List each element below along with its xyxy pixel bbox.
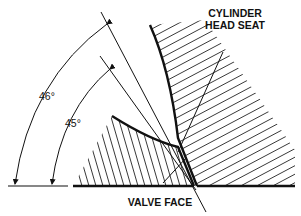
hatch-line [130,214,300,215]
face-angle-line [100,56,196,190]
hatch-line [130,87,300,177]
hatch-line [130,19,300,109]
hatch-line [130,0,300,7]
angle-45-label: 45° [65,117,81,129]
hatch-line [123,110,145,186]
hatch-line [130,110,152,186]
hatch-line [130,172,300,216]
hatch-line [88,110,110,186]
angle-46-arc [15,24,107,184]
hatch-line [130,36,300,126]
valve-face-label: VALVE FACE [128,196,192,208]
hatch-line [130,61,300,151]
hatch-line [151,110,173,186]
hatch-line [130,53,300,143]
hatch-line [81,110,103,186]
hatch-line [95,110,117,186]
hatch-line [130,70,300,160]
hatch-line [130,78,300,168]
angle-46-label: 46° [39,90,55,102]
hatch-line [137,110,159,186]
hatch-line [130,112,300,202]
head-seat-label-line2: HEAD SEAT [205,19,265,31]
valve-seat-diagram: 46° 45° CYLINDER HEAD SEAT VALVE FACE [0,0,301,215]
cylinder-label-line1: CYLINDER [208,7,262,19]
valve-face-outline [112,116,194,186]
seat-leader-line [178,52,223,152]
angle-45-arc [52,69,110,184]
hatch-line [130,44,300,134]
cylinder-head-hatching [130,0,300,215]
